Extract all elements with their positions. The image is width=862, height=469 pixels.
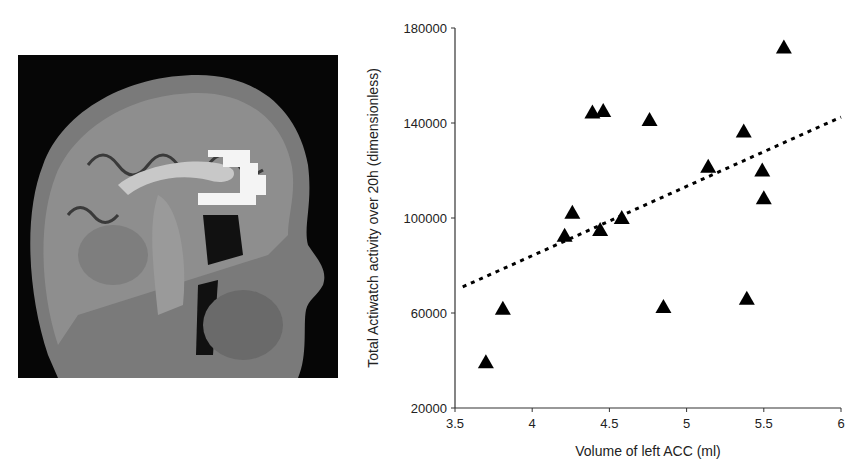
data-point-triangle	[595, 103, 611, 117]
data-point-triangle	[655, 299, 671, 313]
x-tick-label: 4	[529, 416, 536, 431]
data-point-triangle	[564, 205, 580, 219]
data-point-triangle	[642, 112, 658, 126]
x-tick-label: 4.5	[600, 416, 618, 431]
data-point-triangle	[557, 228, 573, 242]
data-point-triangle	[754, 163, 770, 177]
x-tick-label: 5	[683, 416, 690, 431]
data-point-triangle	[739, 291, 755, 305]
x-tick-label: 3.5	[446, 416, 464, 431]
data-point-triangle	[478, 354, 494, 368]
trendline	[463, 117, 841, 287]
x-axis-label: Volume of left ACC (ml)	[575, 443, 721, 459]
x-tick-label: 5.5	[755, 416, 773, 431]
y-axis-label: Total Actiwatch activity over 20h (dimen…	[365, 68, 381, 368]
y-tick-label: 140000	[404, 116, 447, 131]
data-point-triangle	[736, 124, 752, 138]
y-tick-label: 60000	[411, 306, 447, 321]
data-points	[478, 39, 792, 368]
x-tick-label: 6	[837, 416, 844, 431]
y-tick-label: 180000	[404, 21, 447, 36]
y-tick-label: 20000	[411, 401, 447, 416]
data-point-triangle	[756, 190, 772, 204]
data-point-triangle	[700, 159, 716, 173]
data-point-triangle	[776, 39, 792, 53]
chart-axes: 20000600001000001400001800003.544.555.56	[404, 21, 845, 431]
data-point-triangle	[495, 301, 511, 315]
y-tick-label: 100000	[404, 211, 447, 226]
scatter-chart: 20000600001000001400001800003.544.555.56…	[0, 0, 862, 469]
